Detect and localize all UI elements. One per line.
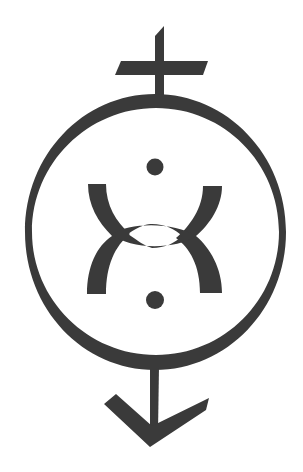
upper-dot [147, 159, 164, 176]
lower-dot [146, 291, 164, 309]
arrow-stem [150, 366, 159, 432]
cross-bar [115, 61, 208, 75]
symbol-figure [0, 0, 303, 472]
